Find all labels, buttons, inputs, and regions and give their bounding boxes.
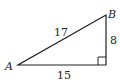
right-angle-marker [98,57,106,65]
vertex-label-a: A [4,60,13,73]
vertical-side-length-label: 8 [110,34,117,47]
base-length-label: 15 [57,69,71,82]
right-triangle-diagram: A B 17 8 15 [0,0,120,83]
triangle-shape [18,15,106,65]
hypotenuse-length-label: 17 [54,26,68,39]
vertex-label-b: B [107,8,116,21]
